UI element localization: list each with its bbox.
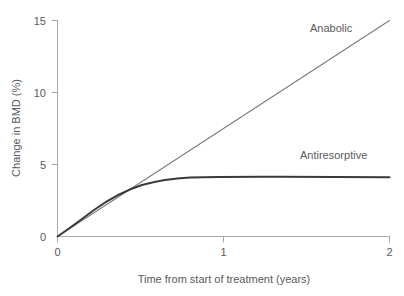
y-tick-label-5: 5: [40, 159, 46, 171]
series-annotation-antiresorptive: Antiresorptive: [300, 149, 367, 161]
y-tick-label-10: 10: [34, 87, 46, 99]
x-tick-label-1: 1: [220, 246, 226, 258]
x-tick-label-2: 2: [386, 246, 392, 258]
y-tick-label-15: 15: [34, 15, 46, 27]
series-annotation-anabolic: Anabolic: [310, 22, 353, 34]
x-axis-title: Time from start of treatment (years): [138, 273, 311, 285]
chart-background: [0, 0, 404, 296]
x-tick-label-0: 0: [54, 246, 60, 258]
bmd-change-line-chart: 15 10 5 0 0 1 2 Change in BMD (%) Time f…: [0, 0, 404, 296]
y-tick-label-0: 0: [40, 231, 46, 243]
y-axis-title: Change in BMD (%): [10, 79, 22, 177]
chart-figure: 15 10 5 0 0 1 2 Change in BMD (%) Time f…: [0, 0, 404, 296]
